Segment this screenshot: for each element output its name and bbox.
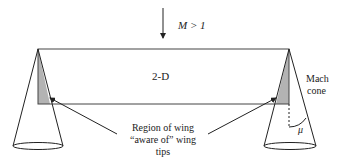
mach-cone-label-2: cone xyxy=(307,85,326,96)
diagram-svg: M > 1 2-D Mach cone μ Region of wing “aw… xyxy=(0,0,345,165)
region-label-1: Region of wing xyxy=(132,122,194,133)
flow-mach-label: M > 1 xyxy=(177,19,206,31)
mach-angle-label: μ xyxy=(297,124,303,135)
region-label-3: tips xyxy=(156,146,171,157)
mach-cone-label-1: Mach xyxy=(306,73,329,84)
wing-2d-label: 2-D xyxy=(152,70,169,82)
right-pointer-arrow xyxy=(208,98,276,134)
left-pointer-arrow xyxy=(50,98,117,134)
supersonic-wing-diagram: M > 1 2-D Mach cone μ Region of wing “aw… xyxy=(0,0,345,165)
right-mach-cone xyxy=(264,49,316,150)
region-label-2: “aware of” wing xyxy=(130,134,196,145)
